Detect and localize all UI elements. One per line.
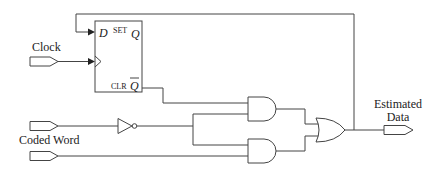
output-label-line1: Estimated [374,97,422,111]
circuit-diagram: Clock D SET Q CLR Q Coded Word Estimated… [0,0,434,171]
not-gate [118,119,132,134]
ff-clr-label: CLR [111,82,127,91]
and1-out-wire [276,109,318,124]
ff-q-label: Q [131,27,140,41]
or-gate [316,118,345,142]
and-gate-2 [248,139,276,163]
coded-word-input-connector-2[interactable] [30,152,58,161]
d-input-arrow-icon [88,29,95,36]
estimated-data-output-connector[interactable] [384,126,413,135]
and2-out-wire [276,136,318,151]
coded-word-input-connector-1[interactable] [30,122,58,131]
clock-arrow-icon [88,58,95,65]
ff-qbar-label: Q [130,79,139,93]
coded-word-label: Coded Word [19,133,79,147]
and-gate-1 [248,97,276,121]
ff-d-label: D [98,26,108,40]
qbar-wire [142,88,248,103]
output-label-line2: Data [387,110,410,124]
clock-label: Clock [32,40,61,54]
clock-input-connector[interactable] [30,57,58,66]
ff-set-label: SET [113,26,127,35]
inverter-bubble-icon [132,124,137,129]
